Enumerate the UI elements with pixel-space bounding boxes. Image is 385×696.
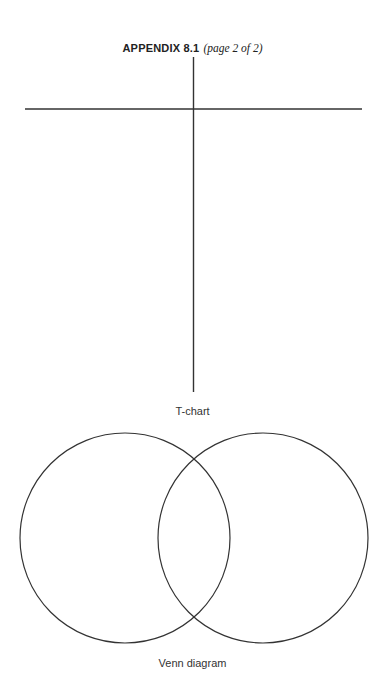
venn-right-circle [158, 433, 368, 643]
venn-diagram-label: Venn diagram [0, 657, 385, 669]
venn-diagram [20, 433, 368, 643]
t-chart-label: T-chart [0, 405, 385, 417]
venn-left-circle [20, 433, 230, 643]
t-chart [25, 57, 362, 392]
diagram-canvas [0, 0, 385, 696]
